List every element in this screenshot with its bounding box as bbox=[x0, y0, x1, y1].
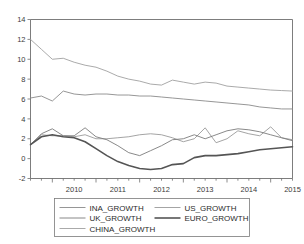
x-tick-label: 2015 bbox=[284, 185, 301, 194]
x-tick-label: 2010 bbox=[66, 185, 83, 194]
legend-label: CHINA_GROWTH bbox=[90, 225, 156, 234]
y-tick-label: 14 bbox=[17, 15, 25, 24]
y-tick-label: 0 bbox=[21, 154, 25, 163]
y-tick-label: 6 bbox=[21, 95, 25, 104]
x-tick-label: 2012 bbox=[153, 185, 170, 194]
legend-label: INA_GROWTH bbox=[90, 204, 144, 213]
y-tick-label: 10 bbox=[17, 55, 25, 64]
legend-label: UK_GROWTH bbox=[90, 214, 142, 223]
chart-figure: 14121086420-2 201020112012201320142015 I… bbox=[0, 0, 304, 244]
x-tick-label: 2011 bbox=[110, 185, 126, 194]
legend-label: EURO_GROWTH bbox=[185, 214, 249, 223]
y-tick-label: 4 bbox=[21, 115, 25, 124]
chart-legend: INA_GROWTHUS_GROWTHUK_GROWTHEURO_GROWTHC… bbox=[55, 199, 250, 237]
legend-label: US_GROWTH bbox=[185, 204, 237, 213]
y-tick-label: -2 bbox=[19, 174, 26, 183]
y-tick-label: 2 bbox=[21, 134, 25, 143]
growth-line-chart: 14121086420-2 201020112012201320142015 I… bbox=[0, 0, 304, 244]
x-tick-label: 2013 bbox=[197, 185, 214, 194]
y-tick-label: 12 bbox=[17, 35, 25, 44]
y-tick-label: 8 bbox=[21, 75, 25, 84]
x-tick-label: 2014 bbox=[240, 185, 257, 194]
